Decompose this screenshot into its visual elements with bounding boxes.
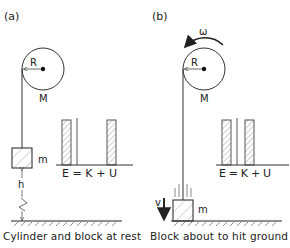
bar-E xyxy=(222,120,231,165)
axle-dot xyxy=(41,67,45,71)
height-indicator: h xyxy=(18,170,28,220)
energy-bar-chart-a: E = K + U xyxy=(56,118,133,180)
axle-dot xyxy=(202,67,206,71)
velocity-label: v xyxy=(155,197,161,208)
omega-label: ω xyxy=(199,26,207,37)
cylinder-mass-label: M xyxy=(39,93,48,104)
energy-bar-chart-b: E = K + U xyxy=(216,118,289,180)
radius-label: R xyxy=(191,57,198,68)
ground-a xyxy=(11,221,122,226)
energy-equation: E = K + U xyxy=(219,167,271,180)
panel-b: (b) ω R M m v xyxy=(150,10,289,242)
cylinder-mass-label: M xyxy=(200,93,209,104)
physics-diagram: (a) R M m h xyxy=(0,0,290,248)
panel-b-label: (b) xyxy=(152,10,168,23)
ground-b xyxy=(171,221,282,226)
cylinder-b: ω R M xyxy=(183,26,225,104)
cylinder-a: R M xyxy=(22,48,64,104)
radius-label: R xyxy=(30,57,37,68)
block-b: m v xyxy=(155,184,208,221)
panel-a-label: (a) xyxy=(4,10,19,23)
block-a: m xyxy=(12,148,48,168)
panel-a: (a) R M m h xyxy=(3,10,141,242)
caption-b: Block about to hit ground xyxy=(150,230,288,242)
block-mass-label: m xyxy=(38,154,48,165)
block-mass-label: m xyxy=(198,204,208,215)
caption-a: Cylinder and block at rest xyxy=(3,230,141,242)
bar-K xyxy=(245,120,254,165)
bar-U xyxy=(107,120,116,165)
bar-E xyxy=(62,120,71,165)
omega-arrow xyxy=(186,38,223,46)
energy-equation: E = K + U xyxy=(62,167,117,180)
height-label: h xyxy=(18,179,24,190)
